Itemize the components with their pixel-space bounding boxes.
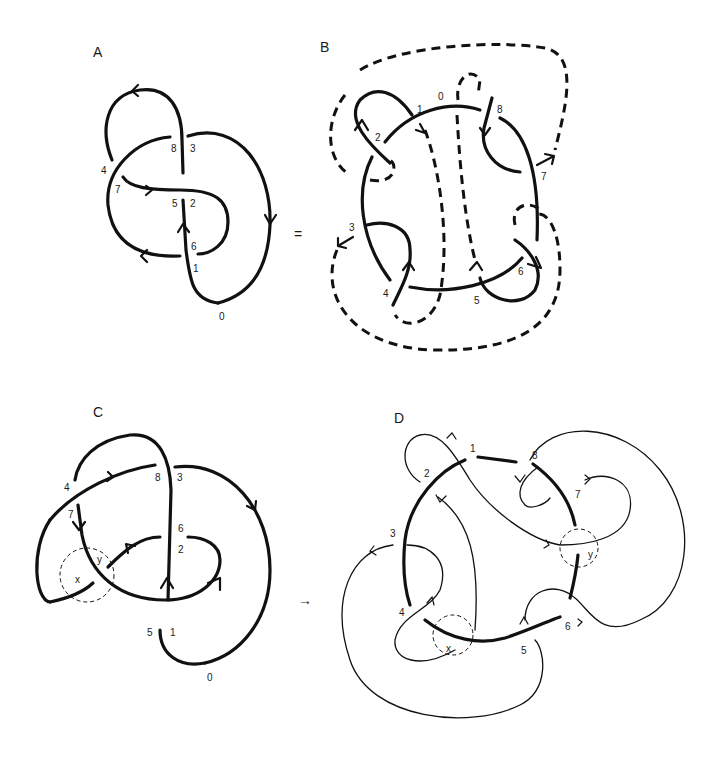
region-label: y: [97, 554, 102, 565]
knot-strand: [106, 90, 183, 173]
region-label: x: [75, 574, 80, 585]
knot-strand: [500, 118, 537, 240]
dashed-strand: [331, 95, 350, 175]
crossing-label: 0: [219, 311, 225, 322]
knot-strand: [570, 555, 578, 598]
equals-sign: =: [294, 226, 302, 242]
direction-arrow-icon: [416, 124, 425, 133]
direction-arrow-icon: [537, 154, 554, 165]
knot-strand: [78, 505, 220, 600]
crossing-label: 3: [349, 222, 355, 233]
knot-strand: [525, 431, 685, 627]
knot-strand: [478, 457, 516, 462]
crossing-label: 6: [518, 266, 524, 277]
crossing-label: 7: [541, 171, 547, 182]
knot-figure: A 8 3 4 7 5 2 6 1 0 = B: [0, 0, 715, 768]
knot-strand: [160, 630, 205, 664]
crossing-label: 2: [375, 132, 381, 143]
knot-strand: [425, 617, 560, 641]
panel-a-label: A: [93, 44, 103, 60]
knot-strand: [385, 106, 480, 142]
direction-arrow-icon: [520, 617, 528, 624]
crossing-label: 0: [207, 672, 213, 683]
crossing-label: 3: [177, 472, 183, 483]
knot-strand: [405, 434, 631, 545]
dashed-strand: [457, 115, 475, 260]
crossing-label: 8: [171, 143, 177, 154]
dashed-strand: [395, 130, 444, 323]
direction-arrow-icon: [470, 262, 482, 270]
knot-strand: [362, 157, 390, 280]
crossing-label: 2: [178, 544, 184, 555]
crossing-label: 3: [390, 528, 396, 539]
crossing-label: 8: [497, 104, 503, 115]
crossing-label: 5: [147, 627, 153, 638]
crossing-label: 1: [417, 104, 423, 115]
crossing-label: 1: [170, 627, 176, 638]
knot-strand: [37, 520, 50, 602]
crossing-label: 8: [155, 472, 161, 483]
crossing-label: 7: [575, 489, 581, 500]
crossing-label: 5: [521, 645, 527, 656]
knot-strand: [533, 464, 575, 525]
panel-c: C x y 4 8 3 7 6 2 5 1 0: [37, 404, 270, 683]
crossing-label: 6: [191, 241, 197, 252]
crossing-label: 8: [532, 450, 538, 461]
direction-arrow-icon: [338, 237, 353, 248]
region-circle: [60, 548, 114, 602]
panel-d-label: D: [394, 410, 404, 426]
crossing-label: 6: [178, 523, 184, 534]
panel-a: A 8 3 4 7 5 2 6 1 0: [93, 44, 276, 322]
direction-arrow-icon: [578, 619, 582, 626]
knot-strand: [50, 583, 93, 602]
direction-arrow-icon: [447, 433, 456, 439]
panel-b-label: B: [320, 39, 329, 55]
knot-strand: [438, 497, 476, 630]
crossing-label: 0: [438, 91, 444, 102]
knot-strand: [75, 435, 171, 600]
crossing-label: 3: [190, 143, 196, 154]
crossing-label: 4: [101, 165, 107, 176]
knot-strand: [410, 258, 522, 290]
crossing-label: 2: [424, 468, 430, 479]
transform-arrow: →: [298, 592, 312, 608]
crossing-label: 4: [399, 607, 405, 618]
knot-strand: [404, 460, 465, 605]
region-circle: [560, 529, 598, 567]
knot-strand: [367, 223, 410, 305]
knot-strand: [175, 466, 270, 663]
knot-strand: [108, 537, 160, 567]
crossing-label: 6: [565, 621, 571, 632]
crossing-label: 7: [115, 184, 121, 195]
crossing-label: 5: [474, 295, 480, 306]
region-label: x: [446, 643, 451, 654]
crossing-label: 5: [172, 198, 178, 209]
knot-strand: [355, 92, 412, 163]
crossing-label: 2: [190, 198, 196, 209]
knot-strand: [123, 177, 228, 254]
crossing-label: 4: [64, 482, 70, 493]
panel-c-label: C: [93, 404, 103, 420]
crossing-label: 1: [193, 263, 199, 274]
knot-strand: [108, 137, 180, 256]
region-label: y: [588, 549, 593, 560]
crossing-label: 1: [470, 443, 476, 454]
dashed-strand: [458, 74, 480, 100]
crossing-label: 7: [68, 509, 74, 520]
panel-b: B 0 1 8 2 7 3 6 4: [320, 39, 567, 350]
crossing-label: 4: [383, 288, 389, 299]
panel-d: D x y 1 8 2 7 3 4 5 6: [342, 410, 684, 718]
